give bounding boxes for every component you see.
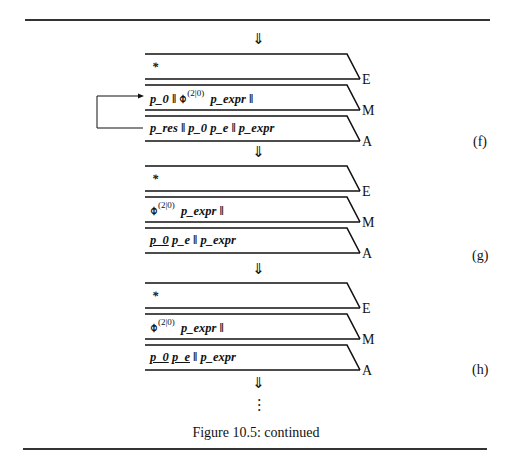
feedback-line bbox=[97, 96, 143, 128]
lane-label-e: E bbox=[362, 72, 371, 88]
lane-label-m: M bbox=[362, 332, 374, 348]
figure-caption: Figure 10.5: continued bbox=[0, 425, 512, 441]
lane-e-f bbox=[145, 54, 360, 79]
lane-a-content: p_0 p_e ‖ p_expr bbox=[150, 233, 236, 248]
lane-label-e: E bbox=[362, 301, 371, 317]
step-label-f: (f) bbox=[473, 134, 487, 150]
operator-icon: ⌽ bbox=[150, 204, 158, 218]
lane-label-a: A bbox=[362, 246, 372, 262]
down-arrow-icon: ⇓ bbox=[252, 260, 265, 278]
down-arrow-icon: ⇓ bbox=[252, 143, 265, 161]
step-label-g: (g) bbox=[472, 248, 488, 264]
lane-label-e: E bbox=[362, 184, 371, 200]
lane-a-content: p_0 p_e ‖ p_expr bbox=[150, 350, 236, 365]
lane-e-content: * bbox=[152, 60, 158, 75]
lane-label-m: M bbox=[362, 103, 374, 119]
down-arrow-icon: ⇓ bbox=[252, 374, 265, 392]
feedback-arrowhead-icon bbox=[138, 94, 144, 99]
lane-e-content: * bbox=[152, 172, 158, 187]
lane-label-a: A bbox=[362, 363, 372, 379]
lane-a-content: p_res ‖ p_0 p_e ‖ p_expr bbox=[150, 121, 274, 136]
lane-label-m: M bbox=[362, 215, 374, 231]
lane-m-content: p_0 ‖ ⌽(2|0) p_expr ‖ bbox=[150, 88, 253, 107]
lane-label-a: A bbox=[362, 134, 372, 150]
vertical-ellipsis: ··· bbox=[257, 398, 261, 413]
lane-m-content: ⌽(2|0) p_expr ‖ bbox=[150, 200, 224, 219]
operator-icon: ⌽ bbox=[150, 321, 158, 335]
step-label-h: (h) bbox=[472, 362, 488, 378]
lane-e-content: * bbox=[152, 289, 158, 304]
down-arrow-icon: ⇓ bbox=[252, 30, 265, 48]
bottom-rule bbox=[23, 448, 487, 450]
lane-m-content: ⌽(2|0) p_expr ‖ bbox=[150, 317, 224, 336]
